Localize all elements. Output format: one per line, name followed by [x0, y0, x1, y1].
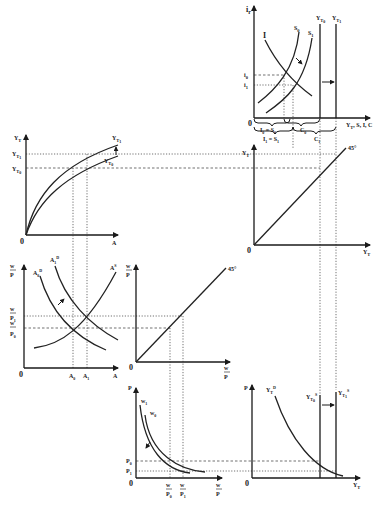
a0d-label: A0D [33, 268, 42, 278]
w-p0-tick-w: w [166, 482, 171, 488]
p1-tick-label: P1 [126, 468, 132, 476]
yt0s-label: YT0S [306, 392, 318, 403]
origin-label: 0 [248, 119, 252, 128]
shift-arrow [296, 58, 302, 64]
labor-supply [34, 272, 116, 348]
y-axis-label-p: P [126, 272, 130, 278]
i0-label: i0 [244, 72, 249, 80]
labor-demand-shift-arrow [58, 299, 64, 305]
x-axis-label: A [112, 240, 117, 246]
x-axis-label: YT [363, 249, 370, 257]
y-axis-label: ir [246, 5, 251, 15]
45-degree-label: 45° [228, 266, 237, 272]
investment-curve-label: I [263, 31, 266, 40]
panel-labor-market: w P 0 A A0D A1D AS w P1 w P0 A0 A1 [10, 255, 118, 381]
x-axis-label-p: P [224, 374, 228, 380]
ytd-label: YTD [266, 385, 276, 395]
as-label: AS [110, 263, 117, 271]
x-axis-label: YT [353, 482, 360, 490]
s0-label: S0 [294, 25, 300, 33]
origin-label: 0 [129, 363, 133, 372]
y-axis-label: YT [242, 150, 249, 158]
w-p0-tick-p: P0 [10, 331, 16, 339]
yt1s-label: YT1S [338, 388, 350, 399]
w-p1-tick-w: w [180, 482, 185, 488]
x-axis-label: YT, S, I, C [346, 122, 372, 130]
w-p0-tick-p: P0 [166, 491, 172, 499]
w-p1-tick-w: w [10, 306, 15, 312]
wage-shift-arrow [146, 442, 150, 448]
w1-label: w1 [141, 398, 147, 406]
x-axis-label-w: w [216, 482, 221, 488]
yt0-tick-label: YT0 [12, 166, 21, 175]
yt1-curve-label: YT1 [112, 135, 121, 144]
panel-45-degree-mid: 45° w P 0 w P [126, 263, 237, 380]
y-axis-label: YT [14, 135, 21, 143]
saving-curve-s0 [258, 32, 299, 103]
panel-price-wage: P 0 w1 w0 P0 P1 w P0 w P1 w P [126, 385, 222, 499]
w-p0-tick-w: w [10, 320, 15, 326]
x-axis-label-w: w [224, 365, 229, 371]
panel-investment-saving: ir 0 YT, S, I, C I S0 S1 YT0 YT1 i0 i1 I… [244, 5, 372, 148]
45-degree-line [136, 268, 226, 362]
i1-label: i1 [244, 82, 249, 90]
origin-label: 0 [245, 479, 249, 488]
a0-tick-label: A0 [69, 373, 75, 381]
wage-curve-w1 [140, 405, 190, 473]
origin-label: 0 [129, 479, 133, 488]
a1-tick-label: A1 [83, 373, 89, 381]
a1d-label: A1D [50, 255, 59, 265]
i1-s1-label: I1 = S1 [263, 136, 279, 144]
w0-label: w0 [150, 410, 156, 418]
panel-production: YT 0 A YT1 YT0 YT1 YT0 [12, 135, 121, 246]
y-axis-label: P [128, 385, 132, 391]
x-axis-label: A [113, 373, 118, 379]
origin-label: 0 [20, 237, 24, 246]
45-degree-label: 45° [348, 145, 357, 151]
y-axis-label-p: P [10, 272, 14, 278]
panel-45-degree-top: 45° YT 0 YT [242, 145, 370, 257]
w-p1-tick-p: P1 [180, 491, 186, 499]
y-axis-label: P [244, 385, 248, 391]
labor-demand-a1 [55, 266, 118, 340]
aggregate-demand-curve [275, 396, 343, 476]
yt1-tick-label: YT1 [12, 151, 21, 160]
yt0-label: YT0 [316, 15, 325, 24]
origin-label: 0 [19, 370, 23, 379]
brace-c0 [284, 119, 320, 126]
s1-label: S1 [308, 30, 314, 38]
c0-label: C0 [300, 127, 306, 135]
y-axis-label-w: w [10, 263, 15, 269]
p0-tick-label: P0 [126, 458, 132, 466]
x-axis-label-p: P [216, 491, 220, 497]
macro-equilibrium-diagram: ir 0 YT, S, I, C I S0 S1 YT0 YT1 i0 i1 I… [0, 0, 386, 510]
yt1-label: YT1 [332, 15, 341, 24]
y-axis-label-w: w [126, 263, 131, 269]
panel-aggregate-supply: P 0 YT YTD YT0S YT1S [244, 385, 360, 490]
45-degree-line [254, 148, 346, 245]
c1-label: C1 [314, 136, 320, 144]
origin-label: 0 [247, 246, 251, 255]
i0-s0-label: I0 = S0 [260, 127, 276, 135]
brace-i0 [254, 119, 290, 126]
wage-curve-w0 [145, 415, 205, 472]
